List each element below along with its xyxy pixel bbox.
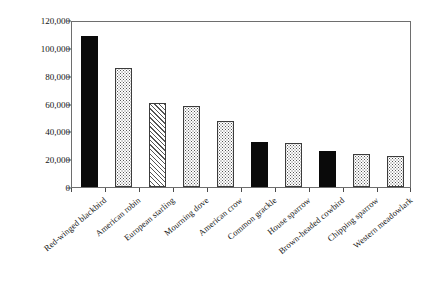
- plot-area: [71, 21, 411, 188]
- bar-western-meadowlark: [387, 156, 404, 187]
- chart-figure: Relative abundance 020,00040,00060,00080…: [0, 0, 434, 293]
- x-tick-mark: [309, 188, 310, 192]
- x-tick-mark: [410, 188, 411, 192]
- x-tick-mark: [343, 188, 344, 192]
- x-axis-tick-marks: [71, 188, 411, 193]
- bar-house-sparrow: [285, 143, 302, 187]
- bar-mourning-dove: [183, 106, 200, 187]
- y-tick-label: 120,000: [22, 17, 70, 26]
- x-tick-mark: [207, 188, 208, 192]
- x-tick-mark: [275, 188, 276, 192]
- bars-container: [72, 22, 410, 187]
- x-tick-mark: [377, 188, 378, 192]
- y-tick-label: 80,000: [22, 72, 70, 81]
- bar-american-robin: [115, 68, 132, 187]
- y-tick-label: 100,000: [22, 44, 70, 53]
- y-tick-label: 40,000: [22, 128, 70, 137]
- y-tick-label: 20,000: [22, 156, 70, 165]
- bar-european-starling: [149, 103, 166, 187]
- x-tick-mark: [241, 188, 242, 192]
- y-tick-label: 0: [22, 184, 70, 193]
- bar-american-crow: [217, 121, 234, 187]
- x-tick-mark: [173, 188, 174, 192]
- bar-brown-headed-cowbird: [319, 151, 336, 187]
- bar-red-winged-blackbird: [81, 36, 98, 187]
- bar-common-grackle: [251, 142, 268, 187]
- x-tick-mark: [139, 188, 140, 192]
- y-tick-label: 60,000: [22, 100, 70, 109]
- x-tick-mark: [105, 188, 106, 192]
- bar-chipping-sparrow: [353, 154, 370, 187]
- x-tick-mark: [71, 188, 72, 192]
